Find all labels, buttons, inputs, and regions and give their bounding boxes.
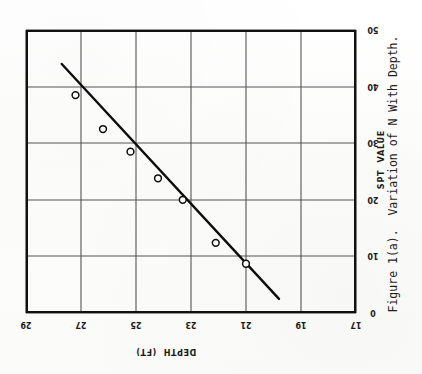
plot-frame [26,30,356,313]
depth-tick-25: 25 [125,320,147,329]
spt-tick-0: 0 [363,308,383,317]
depth-tick-21: 21 [235,320,257,329]
figure-area: 29 27 25 23 21 19 17 0 10 20 30 40 50 DE… [0,0,422,374]
spt-tick-40: 40 [363,82,383,91]
depth-tick-29: 29 [15,320,37,329]
spt-axis-title: SPT VALUE [377,115,386,205]
depth-tick-17: 17 [345,320,367,329]
spt-tick-50: 50 [363,25,383,34]
figure-caption: Figure 1(a). Variation of N With Depth. [386,24,400,324]
depth-tick-27: 27 [70,320,92,329]
spt-tick-10: 10 [363,251,383,260]
depth-tick-23: 23 [180,320,202,329]
depth-axis-title: DEPTH (FT) [96,347,236,356]
depth-tick-19: 19 [290,320,312,329]
